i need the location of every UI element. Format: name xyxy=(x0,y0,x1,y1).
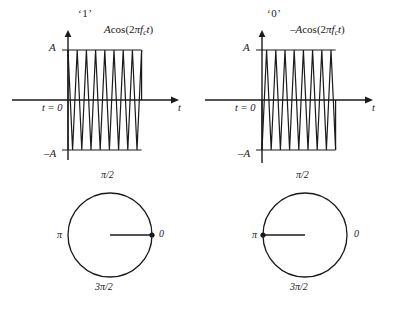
formula-open-paren: (2 xyxy=(125,23,134,35)
phase-label-right-one: 0 xyxy=(159,229,164,239)
bpsk-figure: ‘1’ Acos(2πfct) A –A t = 0 t xyxy=(0,0,395,313)
waveform-panel-zero: ‘0’ –Acos(2πfct) A –A t = 0 t xyxy=(195,0,395,170)
phasor-plot-zero xyxy=(240,170,380,313)
phasor-point-one xyxy=(149,232,154,237)
formula-label-one: Acos(2πfct) xyxy=(104,24,153,36)
formula-cos: cos xyxy=(111,23,126,35)
amplitude-label-positive-zero: A xyxy=(243,42,250,53)
time-axis-one xyxy=(12,96,179,103)
time-axis-zero xyxy=(205,96,373,103)
time-origin-label-zero: t = 0 xyxy=(235,103,256,114)
phase-label-bottom-zero: 3π/2 xyxy=(290,282,308,292)
phase-label-bottom-one: 3π/2 xyxy=(95,282,113,292)
time-axis-label-one: t xyxy=(178,103,181,114)
formula-open-paren: (2 xyxy=(317,23,326,35)
formula-close-paren: ) xyxy=(150,23,154,35)
phase-label-top-one: π/2 xyxy=(101,170,114,180)
formula-close-paren: ) xyxy=(341,23,345,35)
phasor-plot-one xyxy=(45,170,185,313)
phasor-point-zero xyxy=(260,232,265,237)
phase-label-top-zero: π/2 xyxy=(296,170,309,180)
waveform-plot-one xyxy=(0,0,200,170)
phasor-panel-zero: π/2 π 0 3π/2 xyxy=(240,170,380,313)
formula-amplitude: A xyxy=(104,23,111,35)
time-axis-label-zero: t xyxy=(372,103,375,114)
phase-label-left-one: π xyxy=(57,230,62,240)
phase-label-right-zero: 0 xyxy=(354,229,359,239)
formula-cos: cos xyxy=(302,23,317,35)
phase-label-left-zero: π xyxy=(252,230,257,240)
bit-label-one: ‘1’ xyxy=(78,8,92,19)
time-origin-label-one: t = 0 xyxy=(42,103,63,114)
phasor-panel-one: π/2 π 0 3π/2 xyxy=(45,170,185,313)
amplitude-label-negative-zero: –A xyxy=(238,148,250,159)
amplitude-label-positive-one: A xyxy=(49,42,56,53)
waveform-panel-one: ‘1’ Acos(2πfct) A –A t = 0 t xyxy=(0,0,200,170)
amplitude-label-negative-one: –A xyxy=(44,148,56,159)
formula-label-zero: –Acos(2πfct) xyxy=(290,24,345,36)
bit-label-zero: ‘0’ xyxy=(267,8,281,19)
